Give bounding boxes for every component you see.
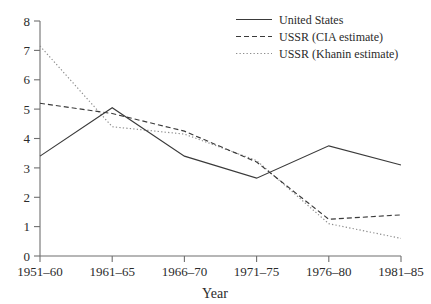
y-tick-label: 8 xyxy=(24,14,31,29)
line-chart: 0 1 2 3 4 5 6 7 8 1951–60 1961–65 1966–7… xyxy=(0,0,431,304)
legend-label-ussr-khanin-estimate: USSR (Khanin estimate) xyxy=(279,47,398,61)
x-tick-label: 1981–85 xyxy=(378,264,424,279)
x-tick-label: 1966–70 xyxy=(162,264,208,279)
legend-label-united-states: United States xyxy=(279,13,344,27)
chart-canvas: 0 1 2 3 4 5 6 7 8 1951–60 1961–65 1966–7… xyxy=(0,0,431,304)
y-tick-label: 4 xyxy=(24,131,31,146)
x-tick-label: 1976–80 xyxy=(306,264,352,279)
y-tick-label: 0 xyxy=(24,249,31,264)
legend-label-ussr-cia-estimate: USSR (CIA estimate) xyxy=(279,30,383,44)
y-tick-label: 7 xyxy=(24,43,31,58)
y-tick-label: 6 xyxy=(24,72,31,87)
x-tick-label: 1961–65 xyxy=(89,264,135,279)
x-axis-title: Year xyxy=(202,286,228,301)
y-tick-label: 1 xyxy=(24,219,31,234)
x-tick-label: 1951–60 xyxy=(17,264,63,279)
x-tick-label: 1971–75 xyxy=(234,264,280,279)
y-tick-label: 3 xyxy=(24,161,31,176)
y-tick-label: 5 xyxy=(24,102,31,117)
y-tick-label: 2 xyxy=(24,190,31,205)
